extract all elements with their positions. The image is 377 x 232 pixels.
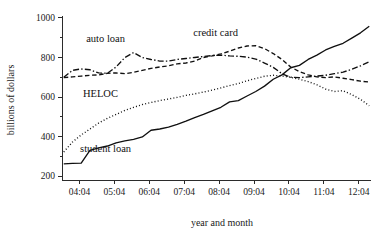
y-tick-label: 200 (41, 171, 56, 181)
y-tick-label: 400 (41, 132, 56, 142)
x-tick-label: 10:04 (278, 187, 300, 197)
x-tick-label: 06:04 (138, 187, 160, 197)
series-label-auto-loan: auto loan (86, 33, 126, 44)
x-tick-label: 11:04 (313, 187, 335, 197)
y-axis-title: billions of dollars (5, 65, 16, 136)
x-tick-label: 09:04 (243, 187, 265, 197)
series-line-HELOC (64, 75, 370, 152)
x-axis-tick-labels: 04:0405:0406:0407:0408:0409:0410:0411:04… (69, 187, 370, 197)
x-axis-ticks (79, 180, 358, 184)
series-label-HELOC: HELOC (83, 88, 118, 99)
y-tick-label: 600 (41, 92, 56, 102)
plot-area: 2004006008001000 04:0405:0406:0407:0408:… (36, 13, 371, 197)
series-label-student-loan: student loan (80, 143, 132, 154)
x-tick-label: 12:04 (348, 187, 370, 197)
y-tick-label: 800 (41, 53, 56, 63)
y-tick-label: 1000 (36, 13, 55, 23)
series-label-credit-card: credit card (193, 27, 238, 38)
x-axis-title: year and month (191, 217, 253, 228)
x-tick-label: 04:04 (69, 187, 91, 197)
chart-container: 2004006008001000 04:0405:0406:0407:0408:… (0, 0, 377, 232)
x-tick-label: 07:04 (173, 187, 195, 197)
y-axis-tick-labels: 2004006008001000 (36, 13, 55, 181)
y-axis-ticks (58, 18, 62, 176)
series-annotations: student loanHELOCauto loancredit card (80, 27, 239, 154)
series-line-auto-loan (64, 53, 370, 78)
x-tick-label: 05:04 (104, 187, 126, 197)
line-chart: 2004006008001000 04:0405:0406:0407:0408:… (0, 0, 377, 232)
x-tick-label: 08:04 (208, 187, 230, 197)
